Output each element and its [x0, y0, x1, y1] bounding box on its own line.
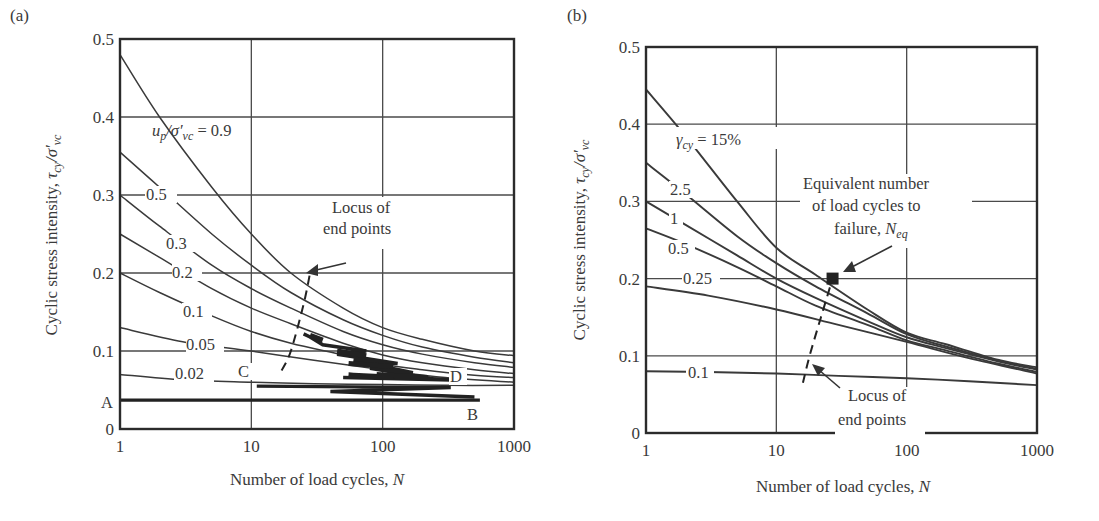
y-tick-label: 0.1 — [93, 342, 114, 361]
panel-label-b: (b) — [567, 6, 587, 25]
curve-labels-a: 0.5 0.3 0.2 0.1 0.05 0.02 — [145, 185, 224, 383]
curve-label-2.5: 2.5 — [670, 180, 691, 199]
y-tick-label: 0.4 — [619, 115, 641, 134]
y-tick-label: 0.5 — [93, 30, 114, 49]
y-tick-label: 0.1 — [619, 347, 640, 366]
x-tick-label: 1000 — [497, 437, 531, 456]
y-axis-label-a: Cyclic stress intensity, τcy/σ′vc — [42, 134, 64, 336]
panel-label-a: (a) — [10, 6, 29, 25]
curve-label-0.5: 0.5 — [668, 239, 689, 258]
point-label-C: C — [238, 362, 249, 381]
x-tick-label: 100 — [370, 437, 396, 456]
locus-label-a-line2: end points — [323, 219, 391, 238]
neq-marker — [827, 273, 839, 285]
curve-label-0.05: 0.05 — [186, 335, 215, 354]
curve-0.2 — [120, 234, 514, 374]
y-tick-label: 0.5 — [619, 38, 640, 57]
y-tick-labels-a: 00.10.20.30.40.5 — [93, 30, 115, 439]
y-tick-label: 0 — [106, 420, 115, 439]
curve-label-0.1: 0.1 — [688, 363, 709, 382]
locus-label-a-line1: Locus of — [332, 198, 391, 217]
x-axis-label-a: Number of load cycles, N — [230, 470, 406, 489]
x-tick-label: 1 — [116, 437, 125, 456]
curve-labels-b: 2.5 1 0.5 0.25 0.1 — [667, 180, 720, 382]
path-segment — [377, 374, 428, 377]
figure-canvas: (a) 00.10.20.30.40.5 1101001000 Cyclic s… — [0, 0, 1099, 521]
y-tick-label: 0 — [632, 424, 641, 443]
curve-label-0.1: 0.1 — [183, 302, 204, 321]
x-tick-labels-b: 1101001000 — [642, 441, 1054, 460]
point-label-B: B — [467, 405, 478, 424]
locus-label-b-line1: Locus of — [848, 386, 907, 405]
path-C-D — [257, 386, 475, 397]
curve-0.1 — [120, 273, 514, 378]
curve-0.5 — [120, 152, 514, 363]
y-tick-label: 0.4 — [93, 108, 115, 127]
point-label-A: A — [101, 393, 113, 412]
neq-label-line2: of load cycles to — [812, 196, 921, 215]
locus-label-b-line2: end points — [838, 410, 906, 429]
y-tick-labels-b: 00.10.20.30.40.5 — [619, 38, 641, 443]
curve-label-1: 1 — [670, 209, 678, 228]
y-tick-label: 0.2 — [619, 270, 640, 289]
x-tick-labels-a: 1101001000 — [116, 437, 531, 456]
chart-panel-a: (a) 00.10.20.30.40.5 1101001000 Cyclic s… — [10, 6, 531, 489]
y-axis-label-b: Cyclic stress intensity, τcy/σ′vc — [570, 139, 592, 341]
point-label-D: D — [450, 367, 462, 386]
y-tick-label: 0.3 — [93, 186, 114, 205]
y-tick-label: 0.2 — [93, 264, 114, 283]
curve-label-0.02: 0.02 — [175, 364, 204, 383]
x-tick-label: 1 — [642, 441, 651, 460]
x-axis-label-b: Number of load cycles, N — [756, 477, 932, 496]
x-tick-label: 10 — [243, 437, 260, 456]
path-segment — [349, 363, 393, 366]
arrow-icon — [843, 246, 892, 272]
curve-label-0.3: 0.3 — [166, 234, 187, 253]
y-tick-label: 0.3 — [619, 192, 640, 211]
x-tick-label: 10 — [768, 441, 785, 460]
curve-label-0.5: 0.5 — [146, 185, 167, 204]
neq-label-line1: Equivalent number — [803, 174, 930, 193]
x-tick-label: 100 — [894, 441, 920, 460]
chart-panel-b: (b) 00.10.20.30.40.5 1101001000 Cyclic s… — [567, 6, 1054, 496]
x-tick-label: 1000 — [1020, 441, 1054, 460]
curve-label-0.2: 0.2 — [172, 263, 193, 282]
arrow-icon — [306, 263, 346, 276]
curve-label-0.25: 0.25 — [683, 269, 712, 288]
load-path-a — [120, 334, 480, 400]
